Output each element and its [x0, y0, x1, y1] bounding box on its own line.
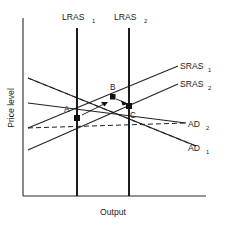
label-lras2-sub: 2: [144, 18, 147, 24]
x-axis-label: Output: [100, 207, 126, 217]
label-sras1-sub: 1: [208, 67, 211, 73]
y-axis-label: Price level: [6, 88, 16, 128]
label-lras2: LRAS 2: [114, 12, 147, 24]
label-sras2-sub: 2: [208, 85, 211, 91]
curve-ad2: [28, 103, 186, 123]
curve-ad2-dashed: [28, 123, 186, 128]
label-lras1-sub: 1: [92, 18, 95, 24]
label-ad2: AD 2: [188, 119, 209, 131]
point-label-c: C: [130, 111, 136, 120]
label-ad1-sub: 1: [206, 149, 209, 155]
as-ad-diagram: A B C LRAS 1 LRAS 2 SRAS 1 SRAS 2 AD 2 A…: [0, 0, 230, 228]
point-marker-c: [126, 103, 132, 109]
label-sras2: SRAS 2: [180, 79, 211, 91]
label-ad2-base: AD: [188, 119, 200, 129]
point-label-b: B: [110, 83, 116, 92]
diagram-canvas: A B C LRAS 1 LRAS 2 SRAS 1 SRAS 2 AD 2 A…: [0, 0, 230, 228]
label-sras2-base: SRAS: [180, 79, 204, 89]
label-ad1-base: AD: [188, 143, 200, 153]
point-marker-a: [74, 115, 80, 121]
label-lras1: LRAS 1: [62, 12, 95, 24]
label-sras1: SRAS 1: [180, 61, 211, 73]
label-lras1-base: LRAS: [62, 12, 85, 22]
curve-sras2: [28, 84, 178, 150]
label-lras2-base: LRAS: [114, 12, 137, 22]
point-label-a: A: [64, 105, 70, 114]
arrow-a-to-b-head: [101, 102, 108, 107]
label-sras1-base: SRAS: [180, 61, 204, 71]
label-ad1: AD 1: [188, 143, 209, 155]
label-ad2-sub: 2: [206, 125, 209, 131]
point-marker-b: [110, 94, 116, 100]
axes-group: [23, 18, 206, 196]
